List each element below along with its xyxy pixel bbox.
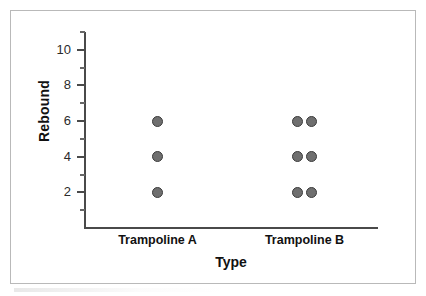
y-axis-minor-tick <box>80 102 85 104</box>
y-axis-line <box>84 32 86 229</box>
data-point <box>292 187 303 198</box>
y-axis-minor-tick <box>80 67 85 69</box>
y-axis-minor-tick <box>80 31 85 33</box>
data-point <box>306 151 317 162</box>
y-axis-major-tick <box>77 49 85 51</box>
y-axis-major-tick <box>77 84 85 86</box>
y-axis-major-tick <box>77 156 85 158</box>
y-axis-tick-label: 2 <box>21 185 71 198</box>
y-axis-tick-label: 6 <box>21 114 71 127</box>
data-point <box>152 187 163 198</box>
y-axis-minor-tick <box>80 209 85 211</box>
y-axis-major-tick <box>77 120 85 122</box>
data-point <box>306 116 317 127</box>
dot-plot-chart: Rebound Type 246810 Trampoline ATrampoli… <box>11 11 417 285</box>
data-point <box>152 151 163 162</box>
data-point <box>292 116 303 127</box>
figure-frame: Rebound Type 246810 Trampoline ATrampoli… <box>10 10 416 284</box>
y-axis-tick-label: 8 <box>21 78 71 91</box>
scan-artifact <box>14 288 224 292</box>
y-axis-major-tick <box>77 191 85 193</box>
x-axis-title: Type <box>84 254 378 270</box>
y-axis-minor-tick <box>80 138 85 140</box>
data-point <box>152 116 163 127</box>
y-axis-tick-label: 4 <box>21 150 71 163</box>
x-axis-line <box>84 227 378 229</box>
x-axis-tick-label: Trampoline A <box>88 233 228 247</box>
x-axis-tick-label: Trampoline B <box>235 233 375 247</box>
data-point <box>306 187 317 198</box>
y-axis-tick-label: 10 <box>21 43 71 56</box>
data-point <box>292 151 303 162</box>
y-axis-minor-tick <box>80 174 85 176</box>
